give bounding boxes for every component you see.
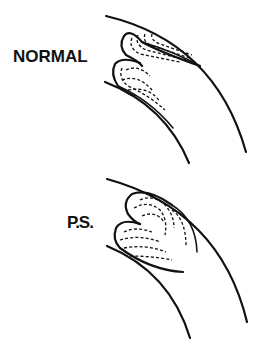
- ps-lower-lobe: [115, 222, 183, 272]
- ps-lower-lobe-folds: [124, 229, 152, 232]
- ps-upper-lobe-fold-2: [134, 204, 166, 235]
- ps-diagram: [107, 179, 247, 338]
- normal-lower-lobe-fold-2: [126, 68, 150, 76]
- normal-upper-lobe-folds: [131, 38, 180, 62]
- normal-inner-arc: [105, 82, 189, 163]
- ps-lower-lobe-fold-2: [120, 237, 160, 242]
- ps-lower-lobe-fold-3: [124, 247, 166, 252]
- normal-outer-arc: [106, 16, 246, 152]
- ps-upper-lobe-fold-3: [142, 214, 164, 222]
- normal-diagram: [105, 16, 246, 163]
- diagram-canvas: [0, 0, 267, 354]
- ps-inner-arc: [107, 246, 190, 338]
